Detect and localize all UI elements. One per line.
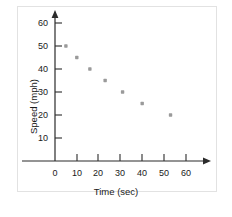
origin-label: 0 — [44, 169, 66, 178]
y-axis-title: Speed (mph) — [28, 79, 39, 134]
data-point — [141, 102, 144, 105]
y-tick-label-50: 50 — [22, 42, 48, 51]
x-tick-label-30: 30 — [109, 169, 131, 178]
x-tick-label-50: 50 — [153, 169, 175, 178]
data-point — [75, 56, 78, 59]
x-tick-marks — [77, 154, 186, 161]
data-point — [88, 67, 91, 70]
data-point — [64, 44, 67, 47]
y-tick-label-60: 60 — [22, 19, 48, 28]
x-tick-label-40: 40 — [131, 169, 153, 178]
data-point — [103, 79, 106, 82]
x-tick-label-10: 10 — [66, 169, 88, 178]
data-point-group — [64, 44, 172, 116]
x-axis — [22, 158, 211, 165]
x-axis-title: Time (sec) — [0, 186, 232, 197]
data-point — [121, 90, 124, 93]
x-tick-label-60: 60 — [175, 169, 197, 178]
y-tick-label-40: 40 — [22, 65, 48, 74]
y-tick-marks — [55, 23, 62, 138]
x-tick-label-20: 20 — [87, 169, 109, 178]
y-tick-label-10: 10 — [22, 134, 48, 143]
chart-figure: 60 50 40 30 20 10 0 10 20 30 40 50 60 Ti… — [0, 0, 232, 217]
data-point — [169, 113, 172, 116]
